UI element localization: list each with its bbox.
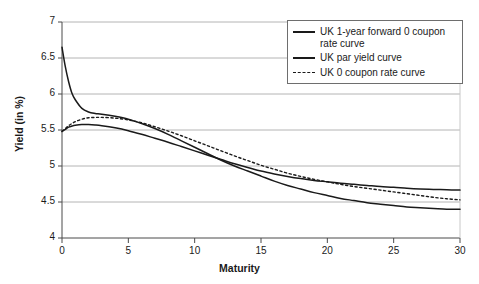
x-tick-label: 25 (379, 245, 409, 256)
legend-item-forward-curve: UK 1-year forward 0 coupon rate curve (293, 26, 458, 49)
y-tick-label: 6.5 (21, 51, 55, 62)
x-tick-label: 30 (445, 245, 475, 256)
legend-label: UK 0 coupon rate curve (320, 67, 425, 79)
series-line-1 (62, 125, 460, 191)
y-tick-label: 7 (21, 15, 55, 26)
legend-label: UK 1-year forward 0 coupon rate curve (320, 26, 458, 49)
y-tick-label: 5.5 (21, 123, 55, 134)
legend-line-solid-icon (293, 52, 315, 63)
legend-item-par-yield-curve: UK par yield curve (293, 52, 458, 64)
x-tick-label: 0 (47, 245, 77, 256)
legend-line-solid-icon (293, 26, 315, 37)
x-tick-label: 15 (246, 245, 276, 256)
legend-item-zero-coupon-curve: UK 0 coupon rate curve (293, 67, 458, 79)
x-tick-label: 20 (312, 245, 342, 256)
legend-label: UK par yield curve (320, 52, 402, 64)
y-tick-label: 5 (21, 159, 55, 170)
x-tick-label: 5 (113, 245, 143, 256)
legend-line-dashed-icon (293, 67, 315, 78)
chart-legend: UK 1-year forward 0 coupon rate curve UK… (287, 20, 463, 84)
x-axis-label: Maturity (0, 262, 479, 274)
yield-curve-chart: Yield (in %) Maturity 44.555.566.5705101… (0, 0, 479, 284)
y-tick-label: 4 (21, 231, 55, 242)
x-tick-label: 10 (180, 245, 210, 256)
y-tick-label: 6 (21, 87, 55, 98)
y-tick-label: 4.5 (21, 195, 55, 206)
